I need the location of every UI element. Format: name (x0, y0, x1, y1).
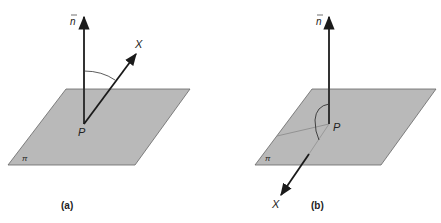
panel-a: n P X π (a) (8, 15, 190, 211)
vector-label: X (271, 198, 280, 210)
plane-pi (255, 89, 436, 165)
point-label: P (78, 126, 86, 138)
plane-label: π (22, 154, 28, 163)
normal-label: n (316, 16, 322, 27)
point-label: P (333, 121, 341, 133)
panel-b: n P X π (b) (255, 15, 436, 211)
plane-pi (8, 89, 190, 165)
vector-label: X (134, 38, 143, 50)
diagram: n P X π (a) n P X π (b) (0, 0, 441, 223)
normal-label: n (70, 16, 76, 27)
caption-a: (a) (61, 200, 73, 211)
caption-b: (b) (311, 200, 324, 211)
plane-label: π (265, 154, 271, 163)
angle-arc (84, 71, 115, 80)
